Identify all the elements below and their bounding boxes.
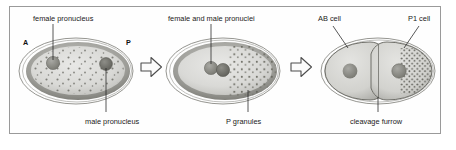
arrow-right-icon	[291, 58, 312, 77]
panel-2: female and male pronuclei P granules	[166, 14, 280, 126]
arrow-right-icon	[141, 58, 162, 77]
figure-canvas: A P female pronucleus male pronucleus fe…	[0, 0, 456, 150]
ab-cell-leader	[333, 26, 348, 48]
panel-1: A P female pronucleus male pronucleus	[19, 14, 140, 126]
p-granules-dispersed	[32, 47, 124, 94]
anterior-marker: A	[23, 38, 28, 47]
stage-arrow-2	[291, 58, 312, 77]
p-granules-label: P granules	[226, 117, 262, 126]
ab-cell-label: AB cell	[318, 14, 341, 23]
posterior-marker: P	[126, 38, 131, 47]
p-granules-posterior	[228, 46, 280, 96]
female-pronucleus-label: female pronucleus	[33, 14, 94, 23]
stage-arrow-1	[141, 58, 162, 77]
female-and-male-pronuclei-label: female and male pronuclei	[168, 14, 255, 23]
ab-nucleus	[343, 64, 358, 79]
p1-nucleus	[392, 64, 406, 78]
p1-cell-label: P1 cell	[408, 14, 431, 23]
embryo-development-figure: A P female pronucleus male pronucleus fe…	[0, 0, 456, 150]
panel-3: AB cell P1 cell cleavage furrow	[318, 14, 435, 126]
cleavage-furrow-label: cleavage furrow	[350, 117, 403, 126]
male-pronucleus-label: male pronucleus	[85, 117, 140, 126]
male-pronucleus	[216, 63, 229, 76]
